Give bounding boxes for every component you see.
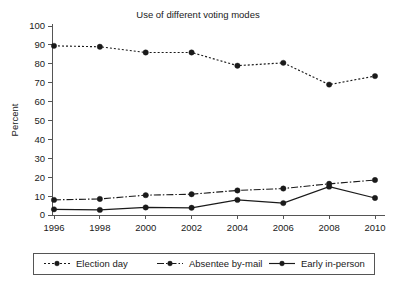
x-tick-label: 2004 — [227, 222, 248, 233]
data-point — [235, 63, 240, 68]
chart-figure: Use of different voting modes 0102030405… — [0, 0, 397, 282]
x-tick-label: 2010 — [364, 222, 385, 233]
y-tick-label: 80 — [34, 58, 45, 69]
legend-label: Absentee by-mail — [189, 258, 262, 269]
data-point — [281, 60, 286, 65]
y-tick-label: 100 — [29, 20, 45, 31]
x-tick-label: 2008 — [319, 222, 340, 233]
legend-label: Election day — [76, 258, 128, 269]
data-point — [97, 44, 102, 49]
y-axis-title: Percent — [9, 103, 20, 136]
data-point — [281, 186, 286, 191]
x-tick-label: 1998 — [89, 222, 110, 233]
data-point — [372, 195, 377, 200]
data-point — [143, 50, 148, 55]
y-tick-label: 0 — [40, 209, 45, 220]
x-tick-label: 2006 — [273, 222, 294, 233]
data-point — [51, 43, 56, 48]
data-point — [281, 200, 286, 205]
y-tick-label: 90 — [34, 39, 45, 50]
legend-marker — [168, 261, 173, 266]
data-point — [51, 207, 56, 212]
legend-label: Early in-person — [301, 258, 365, 269]
data-point — [189, 50, 194, 55]
legend-marker — [280, 261, 285, 266]
data-point — [235, 188, 240, 193]
data-point — [326, 184, 331, 189]
data-point — [51, 197, 56, 202]
y-tick-label: 60 — [34, 96, 45, 107]
data-point — [143, 205, 148, 210]
data-point — [97, 207, 102, 212]
data-point — [326, 82, 331, 87]
x-tick-label: 1996 — [43, 222, 64, 233]
data-point — [189, 205, 194, 210]
data-point — [97, 196, 102, 201]
data-point — [143, 192, 148, 197]
y-tick-label: 10 — [34, 191, 45, 202]
chart-legend: Election dayAbsentee by-mailEarly in-per… — [33, 253, 374, 274]
legend-marker — [55, 261, 60, 266]
data-point — [372, 177, 377, 182]
data-point — [372, 73, 377, 78]
data-point — [189, 192, 194, 197]
x-tick-label: 2000 — [135, 222, 156, 233]
y-tick-label: 30 — [34, 153, 45, 164]
line-chart: Use of different voting modes 0102030405… — [0, 0, 397, 282]
y-tick-label: 70 — [34, 77, 45, 88]
chart-title: Use of different voting modes — [136, 9, 260, 20]
y-tick-label: 50 — [34, 115, 45, 126]
y-tick-label: 40 — [34, 134, 45, 145]
chart-background — [0, 0, 397, 282]
y-tick-label: 20 — [34, 172, 45, 183]
data-point — [235, 197, 240, 202]
x-tick-label: 2002 — [181, 222, 202, 233]
